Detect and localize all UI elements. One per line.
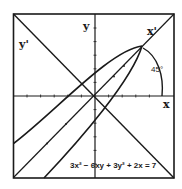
y-axis-label: y — [82, 20, 90, 33]
x-prime-axis-label: x' — [147, 25, 157, 38]
parabola-diagram: y y' x' x 45° 3x² − 6xy + 3y² + 2x = 7 — [0, 0, 182, 189]
parabola-upper-branch — [14, 46, 143, 144]
equation-label: 3x² − 6xy + 3y² + 2x = 7 — [70, 161, 157, 170]
parabola-lower-branch — [44, 46, 142, 178]
x-axis-label: x — [163, 98, 170, 111]
y-prime-axis-label: y' — [18, 38, 29, 51]
angle-label: 45° — [151, 65, 163, 74]
